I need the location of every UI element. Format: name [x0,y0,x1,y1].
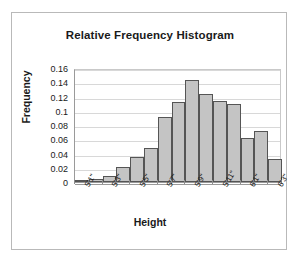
y-axis-tick-label: 0.16 [50,64,68,74]
x-axis-tick-mark [157,180,158,184]
y-axis-tick-label: 0.14 [50,78,68,88]
chart-screenshot: Relative Frequency Histogram Frequency 0… [0,0,298,262]
histogram-bar [185,80,199,182]
y-axis-tick-label: 0.12 [50,93,68,103]
chart-title: Relative Frequency Histogram [12,29,288,41]
y-axis-tick-label: 0.06 [50,135,68,145]
x-axis-tick-mark [74,180,75,184]
x-axis-tick-mark [267,180,268,184]
y-axis-tick-label: 0.02 [50,164,68,174]
y-axis-tick-label: 0.08 [50,121,68,131]
y-axis-tick-labels: 00.020.040.060.080.10.120.140.16 [12,69,72,183]
plot-area [74,69,281,183]
bar-series [75,70,280,182]
y-axis-tick-label: 0 [63,178,68,188]
histogram-bar [213,101,227,182]
x-axis-tick-mark [102,180,103,184]
x-axis-tick-mark [240,180,241,184]
histogram-bar [172,102,186,182]
x-axis-title: Height [12,216,288,228]
histogram-bar [158,117,172,182]
chart-card: Relative Frequency Histogram Frequency 0… [11,12,287,250]
x-axis-tick-mark [129,180,130,184]
x-axis-tick-mark [184,180,185,184]
y-axis-tick-label: 0.04 [50,150,68,160]
histogram-bar [199,94,213,182]
x-axis-tick-mark [212,180,213,184]
y-axis-tick-label: 0.1 [55,107,68,117]
